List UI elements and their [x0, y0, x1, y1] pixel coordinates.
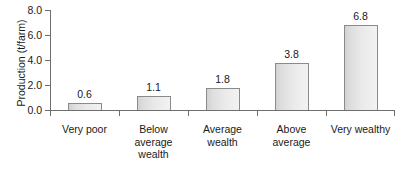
x-axis-category-label: Very wealthy	[318, 123, 404, 136]
y-axis-tick-label: 4.0	[2, 55, 42, 66]
x-axis-category-line: wealth	[111, 148, 197, 161]
bar-value-label: 1.1	[124, 82, 184, 93]
y-axis-tick	[45, 60, 50, 61]
x-axis-tick	[50, 111, 51, 116]
bar	[206, 88, 240, 111]
x-axis-tick	[326, 111, 327, 116]
y-axis-tick-label: 0.0	[2, 105, 42, 116]
y-axis-tick-label: 8.0	[2, 5, 42, 16]
bar	[137, 96, 171, 110]
bar-value-label: 3.8	[262, 49, 322, 60]
y-axis-tick-label: 6.0	[2, 30, 42, 41]
bar-chart-figure: Production (t/farm) 0.02.04.06.08.00.6Ve…	[0, 0, 408, 170]
x-axis-tick	[257, 111, 258, 116]
bar	[275, 63, 309, 111]
x-axis-tick	[119, 111, 120, 116]
y-axis-line	[50, 10, 51, 110]
plot-area: 0.02.04.06.08.00.6Very poor1.1Belowavera…	[50, 10, 395, 110]
y-axis-tick	[45, 85, 50, 86]
x-axis-category-line: Very wealthy	[318, 123, 404, 136]
bar	[344, 25, 378, 110]
bar-value-label: 6.8	[331, 11, 391, 22]
x-axis-category-line: average	[249, 136, 335, 149]
bar	[68, 103, 102, 111]
x-axis-line	[50, 110, 395, 111]
y-axis-tick	[45, 35, 50, 36]
y-axis-tick-label: 2.0	[2, 80, 42, 91]
bar-value-label: 1.8	[193, 74, 253, 85]
x-axis-tick	[394, 111, 395, 116]
bar-value-label: 0.6	[55, 89, 115, 100]
x-axis-tick	[188, 111, 189, 116]
y-axis-tick	[45, 10, 50, 11]
